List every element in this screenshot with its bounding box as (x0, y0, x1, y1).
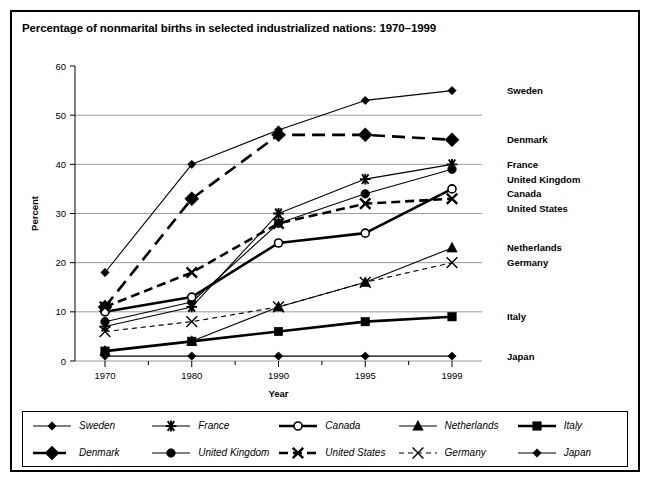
legend-item[interactable]: Denmark (23, 445, 142, 461)
data-point-diamond-small (448, 352, 456, 360)
data-point-diamond-large (272, 128, 286, 142)
data-point-diamond-small (533, 448, 541, 456)
legend-item-label: Germany (445, 447, 486, 458)
series-end-label: Germany (507, 257, 549, 268)
data-point-circle-filled (167, 448, 176, 457)
y-tick-label: 40 (55, 159, 66, 170)
data-point-square (274, 327, 282, 335)
legend-item[interactable]: Italy (508, 418, 627, 434)
series-line (105, 263, 452, 332)
legend-item[interactable]: Sweden (23, 418, 142, 434)
data-point-circle-open (188, 293, 196, 301)
legend-item-label: United Kingdom (198, 447, 269, 458)
data-point-diamond-small (448, 86, 456, 94)
data-point-diamond-small (188, 352, 196, 360)
legend-item[interactable]: Japan (508, 445, 627, 461)
data-point-triangle (447, 242, 457, 252)
series-netherlands (100, 242, 457, 355)
legend-marker-triangle-icon (397, 418, 439, 434)
series-canada (101, 185, 456, 316)
data-point-circle-open (448, 185, 456, 193)
legend-marker-asterisk-icon (150, 418, 192, 434)
x-tick-label: 1970 (94, 370, 115, 381)
legend-item-label: Italy (564, 420, 582, 431)
y-tick-label: 0 (61, 356, 66, 367)
data-point-triangle (412, 420, 422, 430)
legend-marker-x-bold-icon (277, 445, 319, 461)
series-end-label: Japan (507, 351, 535, 362)
series-italy (101, 313, 456, 356)
legend-marker-circle-open-icon (277, 418, 319, 434)
legend-item-label: Sweden (79, 420, 115, 431)
y-tick-label: 30 (55, 208, 66, 219)
y-tick-label: 50 (55, 110, 66, 121)
x-tick-label: 1980 (181, 370, 202, 381)
data-point-diamond-large (358, 128, 372, 142)
data-point-square (361, 317, 369, 325)
data-point-diamond-small (274, 352, 282, 360)
series-germany (100, 257, 458, 337)
legend-marker-diamond-large-icon (31, 445, 73, 461)
data-point-circle-open (275, 239, 283, 247)
data-point-square (188, 337, 196, 345)
legend-marker-diamond-small-icon (516, 445, 558, 461)
data-point-circle-filled (101, 317, 110, 326)
legend-item[interactable]: Canada (269, 418, 388, 434)
series-end-label: France (507, 159, 538, 170)
data-point-circle-filled (361, 190, 370, 199)
series-end-label: Sweden (507, 85, 543, 96)
data-point-circle-open (294, 422, 302, 430)
x-tick-label: 1999 (441, 370, 462, 381)
data-point-diamond-small (361, 96, 369, 104)
y-axis-title: Percent (29, 195, 40, 231)
legend-item[interactable]: Netherlands (389, 418, 508, 434)
legend-marker-x-thin-icon (397, 445, 439, 461)
legend-item-label: United States (325, 447, 385, 458)
data-point-circle-open (361, 229, 369, 237)
series-end-label: Italy (507, 311, 527, 322)
x-tick-label: 1995 (355, 370, 376, 381)
data-point-square (448, 313, 456, 321)
line-chart: 010203040506019701980199019951999YearPer… (12, 12, 638, 408)
figure-root: Percentage of nonmarital births in selec… (0, 0, 650, 483)
legend-marker-square-icon (516, 418, 558, 434)
data-point-diamond-large (45, 446, 59, 460)
legend-item[interactable]: France (142, 418, 269, 434)
data-point-x-bold (187, 267, 197, 277)
legend-item[interactable]: United Kingdom (142, 445, 269, 461)
legend-item-label: Japan (564, 447, 591, 458)
data-point-circle-filled (448, 165, 457, 174)
x-tick-label: 1990 (268, 370, 289, 381)
chart-legend: SwedenFranceCanadaNetherlandsItalyDenmar… (22, 411, 628, 467)
y-tick-label: 10 (55, 306, 66, 317)
y-tick-label: 60 (55, 61, 66, 72)
legend-item-label: France (198, 420, 229, 431)
series-end-label: Denmark (507, 134, 548, 145)
legend-marker-circle-filled-icon (150, 445, 192, 461)
legend-item[interactable]: United States (269, 445, 388, 461)
series-end-label: United Kingdom (507, 174, 580, 185)
data-point-diamond-large (445, 133, 459, 147)
data-point-square (533, 421, 541, 429)
series-end-label: United States (507, 203, 568, 214)
series-japan (101, 352, 456, 360)
x-axis-title: Year (268, 388, 288, 399)
data-point-asterisk (360, 174, 371, 185)
data-point-diamond-small (361, 352, 369, 360)
legend-item-label: Denmark (79, 447, 120, 458)
data-point-asterisk (166, 420, 177, 431)
legend-item-label: Netherlands (445, 420, 499, 431)
y-tick-label: 20 (55, 257, 66, 268)
series-end-label: Netherlands (507, 242, 562, 253)
series-end-label: Canada (507, 188, 542, 199)
legend-item[interactable]: Germany (389, 445, 508, 461)
legend-marker-diamond-small-icon (31, 418, 73, 434)
legend-item-label: Canada (325, 420, 360, 431)
data-point-diamond-small (48, 421, 56, 429)
